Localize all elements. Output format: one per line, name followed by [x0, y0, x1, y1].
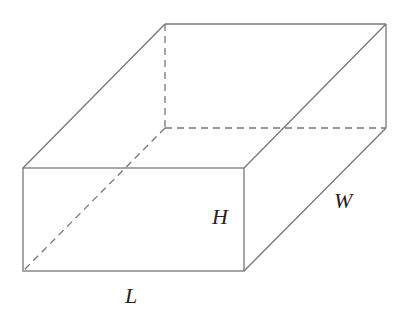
cuboid-diagram: H W L	[0, 0, 407, 313]
height-label: H	[211, 204, 229, 229]
front-face	[23, 168, 244, 271]
edge-top-right-receding	[244, 24, 386, 168]
hidden-edge-bottom-left-receding	[23, 128, 165, 271]
length-label: L	[124, 283, 137, 308]
edge-bottom-right-receding	[244, 128, 386, 271]
edge-top-left-receding	[23, 24, 165, 168]
width-label: W	[334, 188, 354, 213]
